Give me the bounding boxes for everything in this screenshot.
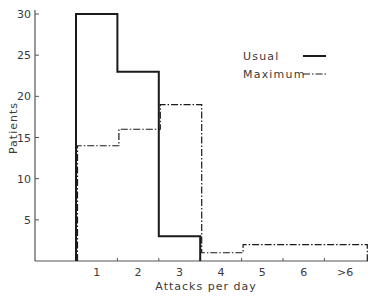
series-maximum-outline <box>78 105 368 261</box>
x-tick-label: 5 <box>259 266 266 279</box>
y-tick-label: 10 <box>17 173 31 186</box>
x-axis-title: Attacks per day <box>155 280 256 293</box>
y-tick-label: 5 <box>24 214 31 227</box>
y-tick-label: 20 <box>17 90 31 103</box>
legend: UsualMaximum <box>243 50 326 81</box>
x-tick-label: 2 <box>135 266 142 279</box>
histogram-chart: 51015202530 123456>6 Patients Attacks pe… <box>0 0 373 296</box>
y-axis-title: Patients <box>7 102 20 154</box>
x-tick-label: 3 <box>176 266 183 279</box>
series-layer <box>76 14 367 261</box>
legend-label-maximum: Maximum <box>243 68 306 81</box>
x-tick-label: >6 <box>337 266 353 279</box>
y-tick-label: 25 <box>17 49 31 62</box>
x-tick-label: 1 <box>93 266 100 279</box>
x-tick-label: 4 <box>217 266 224 279</box>
x-tick-label: 6 <box>300 266 307 279</box>
axes <box>35 10 368 261</box>
y-axis-ticks: 51015202530 <box>17 8 39 227</box>
y-tick-label: 30 <box>17 8 31 21</box>
legend-label-usual: Usual <box>243 50 280 63</box>
series-usual-outline <box>76 14 200 261</box>
